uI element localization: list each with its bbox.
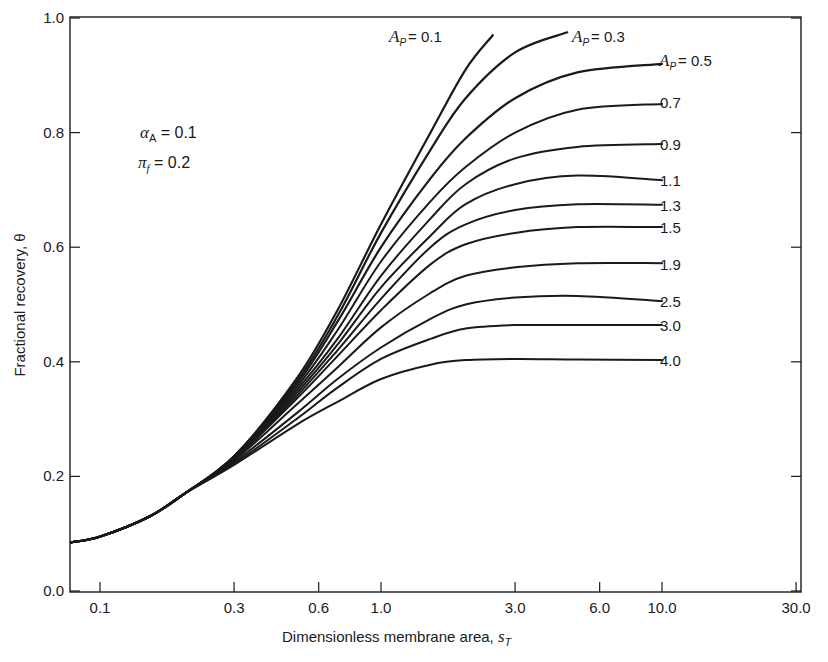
curve-label-ap-0-3: AP= 0.3: [571, 27, 625, 48]
curve-label-ap-0-1: AP= 0.1: [388, 27, 442, 48]
curve-label-0-9: 0.9: [660, 136, 681, 153]
y-tick-label: 0.0: [43, 582, 64, 599]
y-tick-label: 0.6: [43, 238, 64, 255]
y-tick-label: 0.4: [43, 353, 64, 370]
y-tick-label: 0.2: [43, 467, 64, 484]
y-tick-label: 0.8: [43, 124, 64, 141]
curve-4-0: [71, 359, 662, 542]
curve-a-p-0-3: [71, 32, 567, 542]
x-tick-label: 6.0: [589, 599, 610, 616]
curve-label-1-9: 1.9: [660, 256, 681, 273]
chart: 0.10.30.61.03.06.010.030.0 0.00.20.40.60…: [0, 0, 828, 662]
x-tick-label: 10.0: [647, 599, 676, 616]
curve-label-3-0: 3.0: [660, 317, 681, 334]
curve-label-1-5: 1.5: [660, 219, 681, 236]
curve-label-2-5: 2.5: [660, 293, 681, 310]
curve-label-0-7: 0.7: [660, 94, 681, 111]
alpha-annotation: αA = 0.1: [140, 123, 197, 144]
x-tick-label: 0.1: [90, 599, 111, 616]
curve-label-4-0: 4.0: [660, 352, 681, 369]
x-tick-label: 3.0: [505, 599, 526, 616]
y-axis-ticks: 0.00.20.40.60.81.0: [43, 9, 801, 599]
x-tick-label: 30.0: [781, 599, 810, 616]
y-axis-label: Fractional recovery, θ: [11, 233, 28, 376]
curve-1-5: [71, 227, 662, 543]
pi-annotation: πf = 0.2: [138, 153, 190, 174]
curve-label-1-1: 1.1: [660, 172, 681, 189]
curve-label-ap-0-5: AP= 0.5: [658, 51, 712, 72]
x-axis-ticks: 0.10.30.61.03.06.010.030.0: [90, 582, 811, 616]
plot-frame: [70, 17, 801, 592]
x-axis-label: Dimensionless membrane area, sT: [282, 627, 513, 648]
curve-a-p-0-1: [71, 35, 493, 542]
y-tick-label: 1.0: [43, 9, 64, 26]
curve-label-1-3: 1.3: [660, 197, 681, 214]
x-tick-label: 0.3: [224, 599, 245, 616]
curves: [71, 32, 662, 542]
curve-2-5: [71, 296, 662, 543]
x-tick-label: 0.6: [308, 599, 329, 616]
x-tick-label: 1.0: [371, 599, 392, 616]
